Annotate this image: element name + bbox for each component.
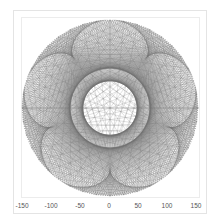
x-tick-label: -100 [44,202,57,209]
x-tick-label: -150 [15,202,28,209]
x-tick-label: -50 [75,202,84,209]
x-tick-label: 150 [191,202,202,209]
chord-diagram [0,0,219,222]
x-tick-label: 50 [134,202,141,209]
x-tick-label: 100 [162,202,173,209]
x-tick-label: 0 [107,202,111,209]
